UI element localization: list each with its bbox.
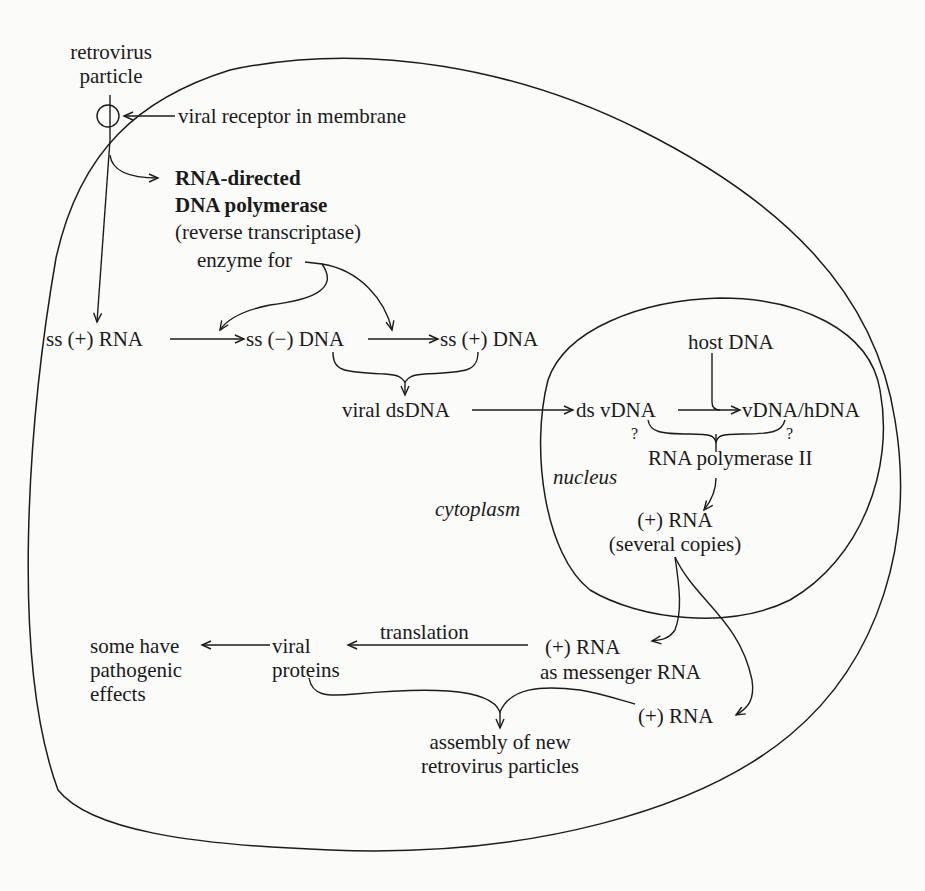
nucleus-label: nucleus [553, 465, 617, 489]
arrow-enzyme-to-step1 [220, 262, 327, 330]
arrow-to-polymerase [110, 155, 158, 178]
plus-rna-copies: (+) RNA (several copies) [590, 508, 760, 556]
vdna-hdna: vDNA/hDNA [742, 398, 860, 422]
rna-polymerase-ii: RNA polymerase II [648, 446, 812, 470]
enzyme-for-label: enzyme for [197, 248, 292, 272]
translation-label: translation [380, 620, 469, 644]
pathogenic-effects: some have pathogenic effects [90, 634, 182, 706]
pathogenic-line1: some have [90, 634, 182, 658]
viral-proteins: viral proteins [272, 634, 340, 682]
plus-rna-genome: (+) RNA [638, 704, 713, 728]
arrow-enzyme-to-step2 [322, 264, 392, 330]
viral-receptor-circle [97, 105, 119, 127]
ss-plus-dna: ss (+) DNA [440, 327, 538, 351]
plus-rna-mrna-line1: (+) RNA [545, 635, 620, 659]
question-mark-right: ? [786, 422, 793, 446]
assembly-line2: retrovirus particles [395, 754, 605, 778]
viral-dsdna: viral dsDNA [342, 398, 450, 422]
retrovirus-particle-label: retrovirus particle [56, 40, 166, 88]
ss-minus-dna: ss (−) DNA [246, 327, 344, 351]
plus-rna-copies-line1: (+) RNA [590, 508, 760, 532]
assembly-line1: assembly of new [395, 730, 605, 754]
ss-plus-rna: ss (+) RNA [46, 327, 143, 351]
arrow-copies-to-mrna [652, 557, 680, 641]
retrovirus-particle-line1: retrovirus [56, 40, 166, 64]
viral-proteins-line1: viral [272, 634, 340, 658]
brace-dsdna [333, 352, 478, 382]
pathogenic-line2: pathogenic [90, 658, 182, 682]
enzyme-name-line2: DNA polymerase [175, 193, 327, 217]
plus-rna-mrna-line2: as messenger RNA [540, 660, 701, 684]
arrow-pol-to-copies [704, 478, 716, 510]
viral-proteins-line2: proteins [272, 658, 340, 682]
pathogenic-line3: effects [90, 682, 182, 706]
arrow-to-ss-plus-rna [97, 140, 110, 322]
host-dna: host DNA [688, 330, 774, 354]
assembly-label: assembly of new retrovirus particles [395, 730, 605, 778]
host-dna-line [712, 353, 720, 410]
viral-receptor-label: viral receptor in membrane [178, 104, 406, 128]
arrow-copies-to-genome [675, 557, 753, 715]
enzyme-name-line1: RNA-directed [175, 166, 301, 190]
question-mark-left: ? [631, 422, 638, 446]
retrovirus-particle-line2: particle [56, 64, 166, 88]
cytoplasm-label: cytoplasm [435, 497, 520, 521]
enzyme-alias: (reverse transcriptase) [175, 220, 361, 244]
diagram-canvas: retrovirus particle viral receptor in me… [0, 0, 925, 891]
plus-rna-copies-line2: (several copies) [590, 532, 760, 556]
ds-vdna: ds vDNA [576, 398, 656, 422]
